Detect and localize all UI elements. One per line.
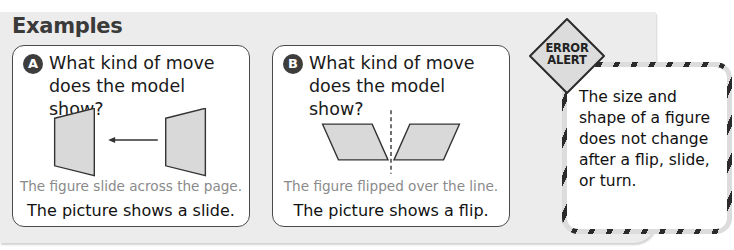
answer-a: The picture shows a slide. [13,201,249,220]
example-card-b: B What kind of move does the model show?… [272,45,510,227]
badge-a-icon: A [23,54,43,74]
error-alert-text: The size and shape of a figure does not … [579,87,721,192]
slide-figure [13,108,249,178]
answer-b: The picture shows a flip. [273,201,509,220]
badge-b-icon: B [283,54,303,74]
error-label-line2: ALERT [527,54,607,66]
caption-b: The figure flipped over the line. [273,178,509,194]
flip-figure [273,108,509,178]
example-card-a: A What kind of move does the model show?… [12,45,250,227]
caption-a: The figure slide across the page. [13,178,249,194]
section-title: Examples [12,14,123,38]
error-alert-label: ERROR ALERT [527,42,607,66]
